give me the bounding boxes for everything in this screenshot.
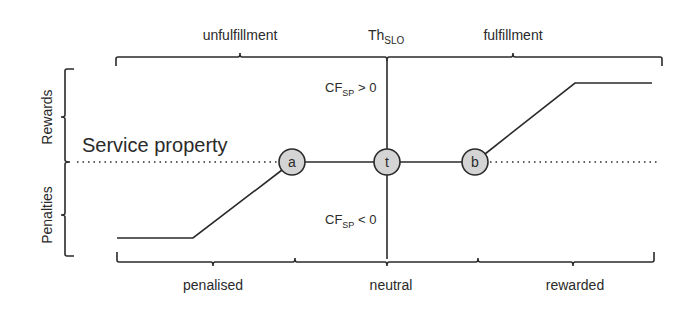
- node-t: t: [374, 149, 400, 175]
- label-unfulfillment: unfulfillment: [203, 27, 278, 43]
- svg-text:t: t: [385, 154, 389, 170]
- label-fulfillment: fulfillment: [483, 27, 542, 43]
- penalty-curve: [117, 170, 282, 238]
- reward-curve: [485, 83, 652, 154]
- sla-service-property-diagram: a t b unfulfillment ThSLO fulfillment Re…: [0, 0, 699, 315]
- left-brace: [61, 69, 74, 256]
- label-cf-negative: CFSP < 0: [325, 212, 376, 230]
- label-rewarded: rewarded: [546, 277, 604, 293]
- label-cf-positive: CFSP > 0: [325, 80, 376, 98]
- label-threshold: ThSLO: [368, 27, 405, 46]
- label-penalised: penalised: [183, 277, 243, 293]
- label-rewards: Rewards: [39, 89, 55, 144]
- top-brace: [116, 53, 662, 66]
- bottom-brace: [117, 252, 654, 266]
- label-penalties: Penalties: [39, 186, 55, 244]
- node-a: a: [279, 149, 305, 175]
- svg-text:a: a: [288, 154, 296, 170]
- svg-text:b: b: [471, 154, 479, 170]
- label-service-property: Service property: [82, 134, 228, 156]
- label-neutral: neutral: [370, 277, 413, 293]
- node-b: b: [462, 149, 488, 175]
